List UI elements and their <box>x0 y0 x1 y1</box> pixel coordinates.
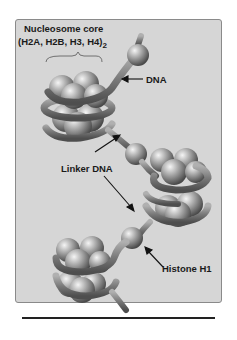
nucleosome-1 <box>44 56 136 140</box>
nucleosome-diagram: Nucleosome core (H2A, H2B, H3, H4)2 DNA … <box>0 0 237 340</box>
brace-icon <box>46 52 102 62</box>
dna-tail-top <box>138 36 141 45</box>
subscript-two: 2 <box>102 41 106 50</box>
histone-h1-top <box>127 44 149 66</box>
chromatin-illustration <box>0 0 237 340</box>
histone-h1-label: Histone H1 <box>162 264 212 274</box>
linker-dna-label: Linker DNA <box>61 164 113 174</box>
nucleosome-3 <box>56 236 126 310</box>
nucleosome-core-title: Nucleosome core <box>24 24 103 34</box>
histone-composition-label: (H2A, H2B, H3, H4)2 <box>18 37 107 50</box>
nucleosome-2 <box>146 148 208 227</box>
dna-label: DNA <box>146 75 167 85</box>
divider-line <box>22 317 215 319</box>
histone-list: (H2A, H2B, H3, H4) <box>18 36 102 47</box>
